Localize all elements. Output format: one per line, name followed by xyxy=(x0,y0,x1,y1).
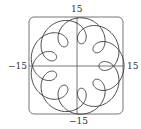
tick-label-right: 15 xyxy=(127,62,138,71)
tick-label-bottom: −15 xyxy=(69,117,88,126)
tick-label-top: 15 xyxy=(71,5,82,14)
plot-frame xyxy=(29,17,123,114)
tick-label-left: −15 xyxy=(8,62,27,71)
